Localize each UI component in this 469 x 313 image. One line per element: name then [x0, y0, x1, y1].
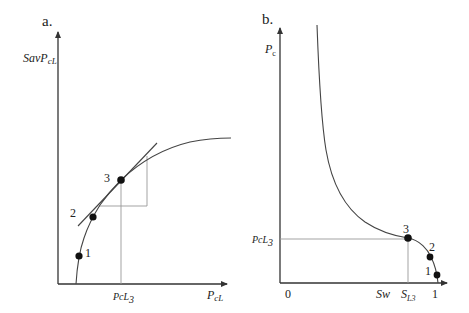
panel-a-point-2-label: 2	[70, 206, 76, 220]
panel-a-tangent-line	[78, 143, 157, 226]
panel-b-point-2-label: 2	[429, 240, 435, 254]
panel-a-point-3	[117, 176, 125, 184]
panel-b-x-end-label: 1	[432, 287, 438, 301]
panel-b-curve	[317, 25, 438, 283]
panel-b-label: b.	[262, 11, 273, 27]
panel-b-point-1-label: 1	[425, 264, 431, 278]
panel-b-x-axis-label: Sw	[376, 287, 390, 301]
panel-a-pcl3-label: PcL3	[112, 291, 134, 305]
panel-b-sl3-label: SL3	[401, 287, 415, 303]
panel-a-curve	[76, 138, 231, 284]
figure: a. SavPcL 1 2 3 PcL3 PcL b. Pc	[0, 0, 469, 313]
panel-b-point-2	[427, 254, 434, 261]
panel-b-origin-label: 0	[285, 287, 291, 301]
panel-b-y-axis-label: Pc	[264, 42, 276, 58]
panel-a-x-axis-label: PcL	[206, 288, 223, 303]
panel-a-point-3-label: 3	[104, 171, 110, 185]
panel-a-point-1	[75, 252, 82, 259]
panel-a: a. SavPcL 1 2 3 PcL3 PcL	[23, 13, 231, 305]
panel-b: b. Pc 3 2 1 PcL3 0 Sw SL3 1	[251, 11, 447, 303]
panel-a-point-2	[89, 213, 96, 220]
panel-b-point-3-label: 3	[403, 222, 409, 236]
panel-a-point-1-label: 1	[85, 246, 91, 260]
panel-a-y-axis-label: SavPcL	[23, 51, 57, 66]
panel-b-pcl3-label: PcL3	[251, 234, 273, 248]
panel-b-point-1	[434, 272, 441, 279]
panel-a-label: a.	[42, 13, 52, 29]
